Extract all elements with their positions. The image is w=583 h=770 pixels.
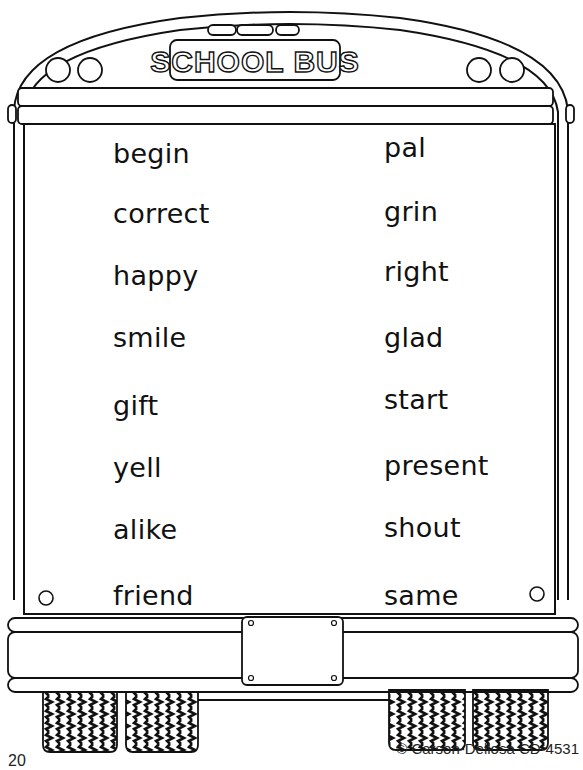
word-item: start	[384, 386, 448, 413]
word-item: present	[384, 452, 489, 479]
word-item: grin	[384, 198, 438, 225]
word-item: happy	[113, 262, 198, 289]
word-item: same	[384, 582, 459, 609]
right-side-nub	[566, 105, 574, 123]
school-bus-sign-text: SCHOOL BUS	[150, 45, 359, 78]
marker-lights	[208, 25, 299, 35]
left-reflector	[39, 591, 53, 605]
word-item: pal	[384, 134, 426, 161]
word-item: shout	[384, 514, 461, 541]
copyright-notice: © Carson-Dellosa CD-4531	[396, 740, 579, 757]
word-item: alike	[113, 516, 177, 543]
word-item: gift	[113, 392, 158, 419]
page-number: 20	[8, 752, 26, 770]
window-panel	[24, 124, 555, 614]
word-item: friend	[113, 582, 194, 609]
word-item: yell	[113, 454, 162, 481]
right-reflector	[530, 587, 544, 601]
word-item: begin	[113, 140, 190, 167]
tire-left-inner	[126, 692, 198, 752]
tire-left-outer	[43, 692, 117, 752]
word-item: glad	[384, 324, 444, 351]
word-item: right	[384, 258, 449, 285]
license-plate	[242, 617, 343, 685]
left-side-nub	[8, 105, 16, 123]
top-rail	[18, 88, 553, 124]
word-item: correct	[113, 200, 210, 227]
word-item: smile	[113, 324, 186, 351]
